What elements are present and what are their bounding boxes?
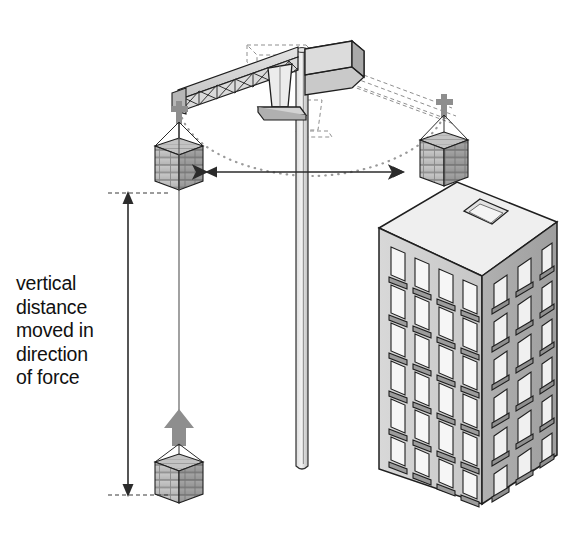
apartment-building (379, 182, 557, 507)
vertical-distance-caption: vertical distance moved in direction of … (16, 272, 146, 390)
diagram-canvas: vertical distance moved in direction of … (0, 0, 587, 545)
